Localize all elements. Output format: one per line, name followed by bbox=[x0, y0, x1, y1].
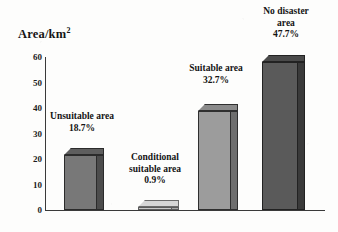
bar-suitable-area bbox=[198, 104, 231, 210]
bar-unsuitable-area-top bbox=[64, 148, 104, 155]
bar-suitable-area-top bbox=[198, 104, 238, 111]
bar-no-disaster-area bbox=[262, 55, 298, 210]
y-tick-20: 20 bbox=[20, 154, 42, 164]
bar-unsuitable-area-side bbox=[97, 155, 104, 210]
chart-figure: Area/km2 60 50 40 30 20 10 0 Unsuitable … bbox=[0, 0, 338, 232]
bar-label-conditional-line2: suitable area bbox=[108, 164, 202, 176]
y-tick-0: 0 bbox=[20, 205, 42, 215]
bar-no-disaster-area-front bbox=[262, 62, 298, 210]
bar-label-conditional-line1: Conditional bbox=[131, 152, 179, 162]
bar-label-suitable-area: Suitable area 32.7% bbox=[168, 63, 264, 86]
bar-label-no-disaster-area: No disaster area 47.7% bbox=[238, 6, 334, 41]
bar-label-conditional-pct: 0.9% bbox=[108, 175, 202, 187]
bar-no-disaster-area-side bbox=[298, 62, 305, 210]
bar-label-no-disaster-pct: 47.7% bbox=[238, 29, 334, 41]
bar-label-unsuitable-area-pct: 18.7% bbox=[28, 123, 136, 135]
bar-unsuitable-area-front bbox=[64, 155, 97, 210]
bar-unsuitable-area bbox=[64, 148, 97, 210]
y-axis-line bbox=[45, 57, 46, 211]
x-axis-line bbox=[45, 210, 325, 211]
y-tick-50: 50 bbox=[20, 78, 42, 88]
y-axis-title-superscript: 2 bbox=[66, 26, 70, 35]
bar-label-no-disaster-line1: No disaster bbox=[263, 6, 309, 16]
y-tick-10: 10 bbox=[20, 180, 42, 190]
bar-label-no-disaster-line2: area bbox=[238, 18, 334, 30]
bar-conditional-suitable-area-top bbox=[138, 200, 179, 207]
bar-label-unsuitable-area: Unsuitable area 18.7% bbox=[28, 111, 136, 134]
bar-no-disaster-area-top bbox=[262, 55, 305, 62]
bar-conditional-suitable-area bbox=[138, 200, 172, 210]
bar-conditional-suitable-area-front bbox=[138, 207, 172, 210]
bar-suitable-area-front bbox=[198, 111, 231, 210]
bar-suitable-area-side bbox=[231, 111, 238, 210]
y-tick-60: 60 bbox=[20, 52, 42, 62]
bar-conditional-suitable-area-side bbox=[172, 207, 179, 210]
bar-label-unsuitable-area-name: Unsuitable area bbox=[50, 111, 114, 121]
bar-label-suitable-area-pct: 32.7% bbox=[168, 75, 264, 87]
bar-label-conditional-suitable-area: Conditional suitable area 0.9% bbox=[108, 152, 202, 187]
bar-label-suitable-area-name: Suitable area bbox=[189, 63, 242, 73]
